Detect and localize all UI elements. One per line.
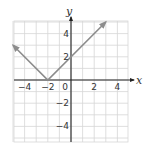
x-axis-label: x: [136, 74, 143, 87]
x-tick-label: −2: [41, 82, 54, 92]
y-tick-label: 4: [63, 29, 69, 39]
y-tick-label: 2: [63, 52, 69, 62]
x-tick-label: 2: [91, 82, 97, 92]
x-tick-label: 4: [115, 82, 121, 92]
axes: [14, 17, 134, 142]
x-tick-label: −4: [18, 82, 32, 92]
function-graph: xy−4−202442−2−4: [0, 0, 143, 149]
y-tick-label: −2: [56, 98, 69, 108]
y-axis-label: y: [65, 5, 73, 18]
y-tick-label: −4: [56, 121, 70, 131]
x-tick-label: 0: [62, 82, 68, 92]
